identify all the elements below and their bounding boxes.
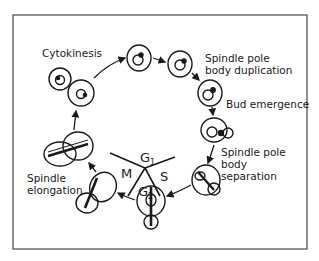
phase-g1: G1 (140, 150, 155, 167)
cell-spindle-elongation (44, 132, 93, 166)
cell-cytokinesis (49, 68, 94, 106)
label-spindle-elongation: Spindleelongation (27, 172, 83, 196)
cell-s-phase (201, 118, 233, 142)
label-spb-duplication: Spindle polebody duplication (205, 52, 292, 76)
phase-m: M (121, 166, 132, 181)
cell-spb-separation (192, 165, 220, 195)
cell-spb-duplication (168, 51, 192, 77)
label-spb-separation: Spindle polebodyseparation (221, 146, 286, 182)
cycle-arrows (74, 58, 214, 200)
cell-cycle-diagram: G1 S M G2 (0, 0, 319, 261)
label-bud-emergence: Bud emergence (226, 98, 309, 110)
cell-bud-emergence (198, 80, 222, 106)
cell-anaphase (76, 168, 121, 213)
label-cytokinesis: Cytokinesis (42, 47, 102, 59)
cell-g1 (127, 45, 151, 71)
phase-s: S (160, 169, 168, 184)
